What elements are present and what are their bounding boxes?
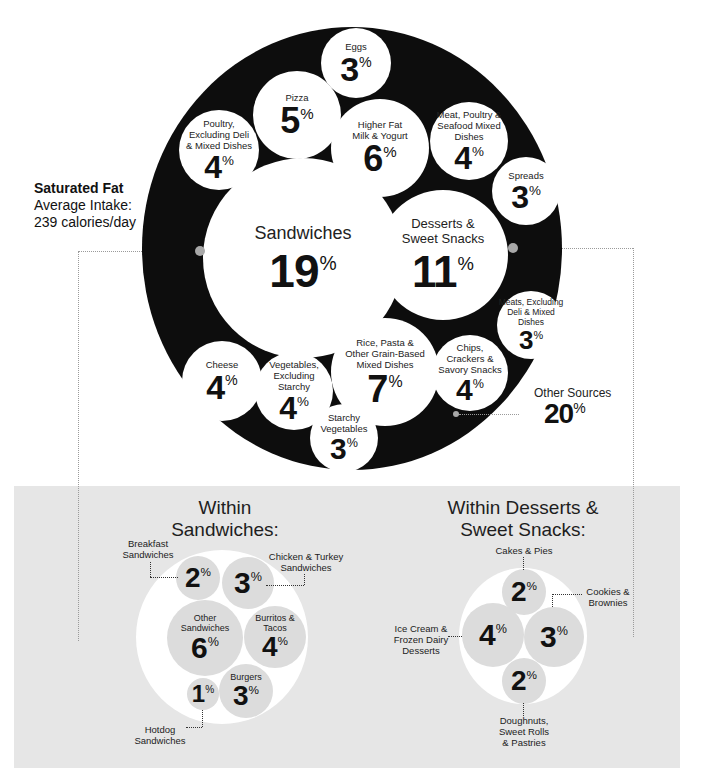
- callout-ice-cream: Ice Cream & Frozen Dairy Desserts: [390, 623, 452, 656]
- callout-doughnuts-line: [523, 703, 524, 716]
- value: 3: [234, 566, 250, 599]
- average-intake-label: Average Intake:: [34, 197, 136, 214]
- sub-bubble-hotdog: 1%: [187, 678, 219, 710]
- sandwiches-connector-v-panel: [78, 486, 79, 641]
- callout-cookies-line-v: [552, 594, 553, 607]
- callout-cookies-line-h: [552, 594, 582, 595]
- sub-bubble-burritos-tacos: Burritos &Tacos 4%: [244, 606, 306, 668]
- value: 1: [192, 680, 204, 707]
- value: 4: [206, 368, 224, 406]
- label: Vegetables, Excluding Starchy: [263, 359, 325, 392]
- sub-bubble-doughnuts: 2%: [502, 658, 546, 704]
- bubble-chips: Chips, Crackers & Savory Snacks 4%: [432, 335, 508, 411]
- callout-hotdog-line-h: [186, 727, 202, 728]
- value: 7: [367, 368, 387, 410]
- average-intake-value: 239 calories/day: [34, 214, 136, 231]
- bubble-cheese: Cheese 4%: [182, 341, 262, 421]
- chart-title: Saturated Fat Average Intake: 239 calori…: [34, 180, 136, 231]
- value: 3: [340, 50, 358, 88]
- value: 4: [262, 631, 277, 662]
- value: 6: [191, 631, 207, 664]
- sub-bubble-other-sandwiches: OtherSandwiches 6%: [167, 600, 243, 676]
- value: 19: [269, 245, 318, 297]
- callout-ice-cream-line: [448, 636, 462, 637]
- callout-chicken-line-v: [304, 574, 305, 585]
- label: Sandwiches: [254, 222, 351, 244]
- callout-cakes-line: [523, 557, 524, 570]
- other-sources-value: 20%: [544, 398, 586, 430]
- nutrient-name: Saturated Fat: [34, 180, 136, 197]
- callout-cakes-pies: Cakes & Pies: [488, 545, 560, 556]
- value: 4: [279, 390, 296, 426]
- value: 3: [519, 325, 532, 355]
- sub-bubble-cookies-brownies: 3%: [524, 607, 584, 667]
- sandwiches-connector-dot: [195, 246, 205, 256]
- label: Chips, Crackers & Savory Snacks: [438, 342, 502, 375]
- value: 3: [511, 179, 528, 215]
- value: 3: [330, 432, 346, 465]
- value: 4: [479, 618, 495, 651]
- bubble-starchy-vegetables: Starchy Vegetables 3%: [310, 404, 378, 472]
- value: 4: [456, 373, 472, 406]
- label: Meat, Poultry & Seafood Mixed Dishes: [434, 109, 504, 142]
- label: Starchy Vegetables: [318, 412, 370, 434]
- sub-bubble-ice-cream: 4%: [462, 603, 524, 667]
- bubble-spreads: Spreads 3%: [492, 157, 560, 225]
- label: OtherSandwiches: [181, 613, 230, 633]
- value: 4: [454, 140, 471, 176]
- value: 3: [540, 620, 556, 653]
- other-sources-connector: [459, 414, 519, 415]
- callout-chicken-line-h: [266, 585, 304, 586]
- label: Burritos &Tacos: [255, 613, 295, 633]
- value: 6: [363, 138, 382, 179]
- callout-hotdog: Hotdog Sandwiches: [130, 724, 190, 746]
- value: 11: [412, 247, 457, 296]
- callout-doughnuts: Doughnuts, Sweet Rolls & Pastries: [488, 715, 560, 748]
- desserts-connector-v-panel: [633, 486, 634, 637]
- label: Poultry, Excluding Deli & Mixed Dishes: [185, 118, 253, 151]
- value: 2: [511, 576, 526, 607]
- callout-breakfast: Breakfast Sandwiches: [118, 538, 178, 560]
- desserts-connector-dot: [508, 243, 518, 253]
- bubble-desserts: Desserts & Sweet Snacks 11%: [378, 190, 508, 320]
- bubble-meat-mixed-dishes: Meat, Poultry & Seafood Mixed Dishes 4%: [430, 102, 508, 180]
- bubble-meats: Meats, Excluding Deli & Mixed Dishes 3%: [497, 291, 565, 359]
- value: 5: [280, 100, 299, 141]
- sandwiches-panel-heading: Within Sandwiches:: [150, 497, 300, 541]
- desserts-panel-heading: Within Desserts & Sweet Snacks:: [428, 497, 618, 541]
- callout-breakfast-line-v: [150, 562, 151, 577]
- value: 2: [511, 665, 526, 696]
- callout-cookies-brownies: Cookies & Brownies: [578, 586, 638, 608]
- label: Meats, Excluding Deli & Mixed Dishes: [498, 297, 564, 327]
- callout-breakfast-line-h: [150, 577, 178, 578]
- value: 3: [233, 680, 248, 711]
- sub-bubble-breakfast: 2%: [176, 556, 220, 600]
- value: 4: [204, 149, 221, 185]
- callout-hotdog-line-v: [202, 710, 203, 727]
- bubble-pizza: Pizza 5%: [253, 71, 341, 159]
- value: 2: [185, 562, 200, 593]
- callout-chicken-turkey: Chicken & Turkey Sandwiches: [266, 551, 346, 573]
- sub-bubble-burgers: Burgers 3%: [219, 664, 273, 718]
- label: Desserts & Sweet Snacks: [392, 216, 494, 246]
- label: Rice, Pasta & Other Grain-Based Mixed Di…: [345, 337, 425, 370]
